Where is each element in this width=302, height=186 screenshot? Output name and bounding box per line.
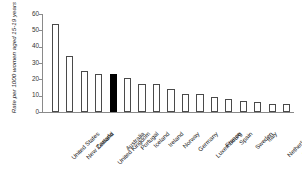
bar-france xyxy=(211,97,218,112)
y-tick-label: 60 xyxy=(32,10,39,17)
y-tick-mark xyxy=(39,30,42,31)
bar-germany xyxy=(182,94,189,112)
y-axis-title: Rate per 1000 women aged 15-19 years xyxy=(10,0,17,117)
y-tick-label: 40 xyxy=(32,42,39,49)
bar-luxembourg xyxy=(196,94,203,112)
bar-new-zealand xyxy=(66,56,73,112)
bar-australia xyxy=(110,74,117,112)
x-label-netherlands: Netherlands xyxy=(286,130,302,158)
x-axis-line xyxy=(42,112,294,113)
y-axis-line xyxy=(42,14,43,112)
y-tick-label: 30 xyxy=(32,59,39,66)
y-tick-mark xyxy=(39,63,42,64)
bar-ireland xyxy=(153,84,160,112)
plot-area: 0102030405060 United StatesNew ZealandCa… xyxy=(42,14,294,112)
bar-sweden xyxy=(240,101,247,112)
y-tick-mark xyxy=(39,79,42,80)
bar-netherlands xyxy=(269,104,276,112)
y-tick-label: 0 xyxy=(35,108,39,115)
chart-figure: Rate per 1000 women aged 15-19 years 010… xyxy=(0,0,302,186)
bar-norway xyxy=(167,89,174,112)
bar-portugal xyxy=(124,78,131,112)
y-tick-label: 50 xyxy=(32,26,39,33)
bar-iceland xyxy=(138,84,145,112)
y-tick-mark xyxy=(39,14,42,15)
bar-spain xyxy=(225,99,232,112)
bar-united-kingdom xyxy=(95,74,102,112)
y-tick-mark xyxy=(39,96,42,97)
y-tick-label: 20 xyxy=(32,75,39,82)
y-tick-mark xyxy=(39,47,42,48)
y-tick-label: 10 xyxy=(32,91,39,98)
bar-switzerland xyxy=(283,104,290,112)
bar-united-states xyxy=(52,24,59,112)
y-tick-mark xyxy=(39,112,42,113)
bar-canada xyxy=(81,71,88,112)
bar-italy xyxy=(254,102,261,112)
